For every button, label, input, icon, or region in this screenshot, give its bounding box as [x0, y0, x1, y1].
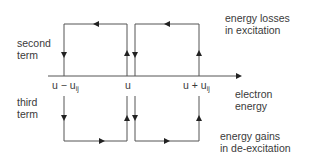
arrow-down-icon: [61, 52, 67, 58]
third-term-loop: [64, 96, 127, 141]
arrow-down-icon: [132, 115, 138, 121]
arrow-down-icon: [132, 52, 138, 58]
arrow-left-icon: [164, 21, 170, 27]
second-term-loop: [64, 24, 127, 76]
arrow-right-icon: [99, 138, 105, 144]
arrow-left-icon: [93, 21, 99, 27]
arrow-up-icon: [124, 115, 130, 121]
energy-gains-label: energy gains in de-excitation: [220, 130, 291, 154]
tick-u: u: [125, 79, 131, 91]
tick-u-plus-uij: u + uij: [183, 79, 210, 95]
second-term-label: second term: [17, 37, 51, 61]
de-excitation-loop: [135, 96, 199, 141]
tick-u-minus-uij: u − uij: [52, 79, 79, 95]
arrow-up-icon: [196, 115, 202, 121]
excitation-loop: [135, 24, 199, 76]
arrow-up-icon: [196, 50, 202, 56]
arrow-down-icon: [61, 115, 67, 121]
axis-arrow-icon: [236, 73, 242, 79]
arrow-up-icon: [124, 50, 130, 56]
arrow-right-icon: [164, 138, 170, 144]
electron-energy-label: electron energy: [235, 88, 272, 112]
third-term-label: third term: [17, 96, 38, 120]
energy-losses-label: energy losses in excitation: [225, 12, 290, 36]
